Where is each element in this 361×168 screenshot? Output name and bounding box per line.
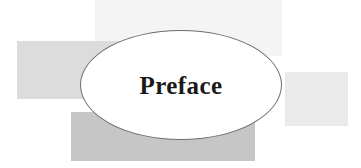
chapter-opener: Preface [0, 0, 361, 168]
decorative-rect-right [285, 72, 348, 126]
chapter-title: Preface [140, 73, 223, 98]
title-ellipse: Preface [80, 30, 282, 140]
